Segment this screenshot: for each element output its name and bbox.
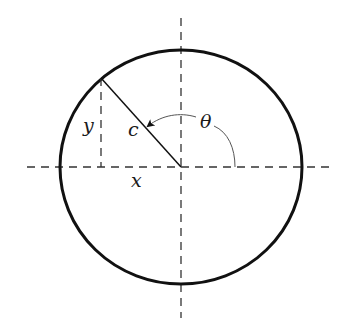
- theta-arc-lower: [214, 126, 235, 167]
- label-x: x: [131, 169, 142, 191]
- theta-arc-arrow: [148, 115, 196, 126]
- label-y: y: [82, 114, 94, 136]
- label-theta: θ: [200, 110, 212, 132]
- radius-line-c: [101, 78, 181, 167]
- polar-diagram: y c x θ: [0, 0, 346, 334]
- diagram-svg: y c x θ: [0, 0, 346, 334]
- label-c: c: [128, 118, 139, 140]
